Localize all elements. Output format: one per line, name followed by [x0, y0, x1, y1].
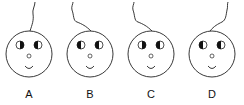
option-label-b: B [80, 88, 100, 100]
option-label-c: C [141, 88, 161, 100]
faces-figure: A B C D [0, 0, 244, 105]
left-eye-b [77, 41, 85, 49]
nose-b [88, 54, 92, 58]
nose-c [149, 54, 153, 58]
face-c [128, 2, 174, 77]
string-b [72, 2, 91, 31]
option-label-a: A [19, 88, 39, 100]
face-d [189, 2, 235, 77]
left-eye-d [199, 41, 207, 49]
left-eye-a [16, 41, 24, 49]
left-eye-c [138, 41, 146, 49]
right-eye-a [34, 41, 42, 49]
right-eye-c [156, 41, 164, 49]
nose-d [210, 54, 214, 58]
right-eye-d [217, 41, 225, 49]
nose-a [27, 54, 31, 58]
face-a [6, 2, 52, 77]
string-c [133, 2, 152, 31]
option-label-d: D [202, 88, 222, 100]
string-a [30, 2, 35, 31]
string-d [210, 2, 228, 31]
right-eye-b [95, 41, 103, 49]
face-b [67, 2, 113, 77]
